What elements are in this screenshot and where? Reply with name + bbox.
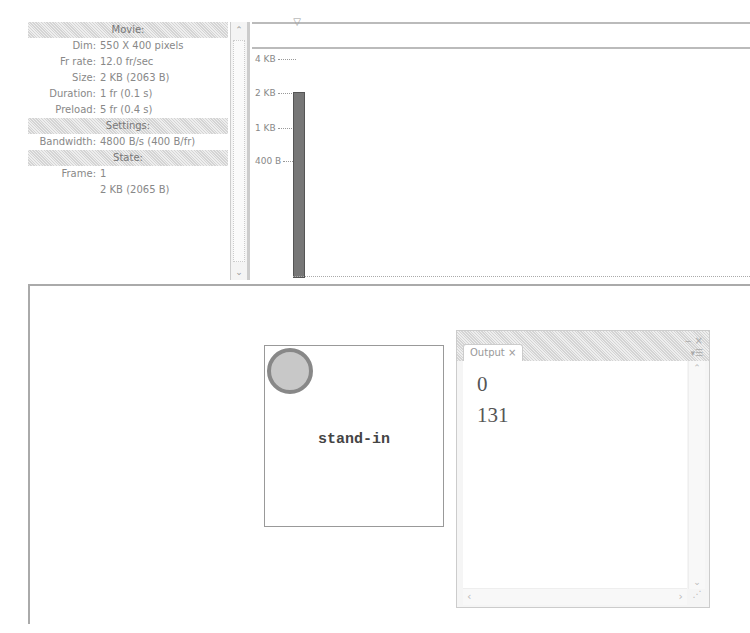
- output-horizontal-scrollbar[interactable]: ‹ ›: [463, 588, 687, 605]
- timeline-ruler-bottom: [252, 47, 750, 49]
- stage-text: stand-in: [265, 431, 443, 448]
- info-row-frame-size: 2 KB (2065 B): [28, 182, 228, 198]
- graph-baseline: [293, 276, 750, 278]
- info-row-dim: Dim:550 X 400 pixels: [28, 38, 228, 54]
- graph-divider: [248, 22, 250, 280]
- info-row-duration: Duration:1 fr (0.1 s): [28, 86, 228, 102]
- state-section-header: State:: [28, 150, 228, 166]
- scroll-left-icon[interactable]: ‹: [467, 590, 471, 603]
- bandwidth-info-panel: Movie: Dim:550 X 400 pixels Fr rate:12.0…: [28, 22, 228, 280]
- y-tick-2kb: 2 KB: [255, 88, 296, 98]
- panel-menu-icon[interactable]: ▾☰: [690, 348, 703, 358]
- scroll-right-icon[interactable]: ›: [679, 590, 683, 603]
- tab-output[interactable]: Output ×: [463, 344, 523, 361]
- output-line: 0: [477, 369, 687, 400]
- y-tick-4kb: 4 KB: [255, 54, 296, 64]
- info-row-frame-rate: Fr rate:12.0 fr/sec: [28, 54, 228, 70]
- scroll-up-button[interactable]: ⌃: [231, 22, 247, 38]
- scroll-up-icon[interactable]: ⌃: [689, 363, 705, 373]
- resize-grip-icon[interactable]: ⋰: [689, 589, 705, 605]
- info-row-bandwidth: Bandwidth:4800 B/s (400 B/fr): [28, 134, 228, 150]
- playhead-icon[interactable]: ▽: [291, 17, 303, 29]
- output-line: 131: [477, 400, 687, 431]
- info-row-frame: Frame:1: [28, 166, 228, 182]
- info-panel-scrollbar[interactable]: ⌃ ⌄: [230, 22, 248, 280]
- info-row-preload: Preload:5 fr (0.4 s): [28, 102, 228, 118]
- y-tick-1kb: 1 KB: [255, 123, 296, 133]
- output-vertical-scrollbar[interactable]: ⌃ ⌄: [688, 361, 705, 589]
- output-panel: Output × ‒ × ▾☰ 0 131 ⌃ ⌄ ‹ › ⋰: [456, 330, 710, 608]
- circle-shape: [267, 348, 313, 394]
- info-row-size: Size:2 KB (2063 B): [28, 70, 228, 86]
- frame-1-bar[interactable]: [293, 92, 305, 278]
- scroll-down-button[interactable]: ⌄: [231, 264, 247, 280]
- movie-section-header: Movie:: [28, 22, 228, 38]
- minimize-close-icon[interactable]: ‒ ×: [685, 335, 703, 346]
- timeline-ruler-top: [252, 22, 750, 24]
- stage-divider-top: [28, 284, 750, 286]
- stage-divider-left: [28, 284, 30, 624]
- scroll-track[interactable]: [233, 40, 245, 262]
- output-text-area[interactable]: 0 131: [463, 361, 687, 589]
- movie-stage: stand-in: [264, 345, 444, 527]
- scroll-down-icon[interactable]: ⌄: [689, 577, 705, 587]
- settings-section-header: Settings:: [28, 118, 228, 134]
